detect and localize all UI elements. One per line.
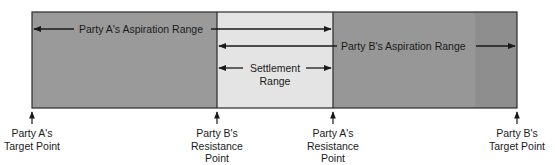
point-label-line: Party A's: [293, 127, 373, 140]
point-label-a-resistance: Party A's Resistance Point: [293, 127, 373, 165]
point-label-b-target: Party B's Target Point: [477, 127, 555, 152]
settlement-region: [217, 12, 333, 108]
point-label-line: Point: [293, 152, 373, 165]
point-label-line: Point: [177, 152, 257, 165]
settlement-label-line1: Settlement: [245, 62, 305, 75]
point-label-a-target: Party A's Target Point: [0, 127, 72, 152]
settlement-range-label: Settlement Range: [245, 62, 305, 87]
party-b-aspiration-label: Party B's Aspiration Range: [338, 40, 469, 52]
dark-strip: [475, 12, 517, 108]
party-a-aspiration-label: Party A's Aspiration Range: [76, 23, 206, 35]
point-label-b-resistance: Party B's Resistance Point: [177, 127, 257, 165]
point-label-line: Party B's: [177, 127, 257, 140]
point-label-line: Resistance: [293, 140, 373, 153]
bargaining-zone-diagram: Party A's Aspiration Range Party B's Asp…: [0, 0, 555, 165]
point-label-line: Party A's: [0, 127, 72, 140]
point-label-line: Party B's: [477, 127, 555, 140]
point-label-line: Resistance: [177, 140, 257, 153]
point-label-line: Target Point: [0, 140, 72, 153]
settlement-label-line2: Range: [245, 75, 305, 88]
point-label-line: Target Point: [477, 140, 555, 153]
